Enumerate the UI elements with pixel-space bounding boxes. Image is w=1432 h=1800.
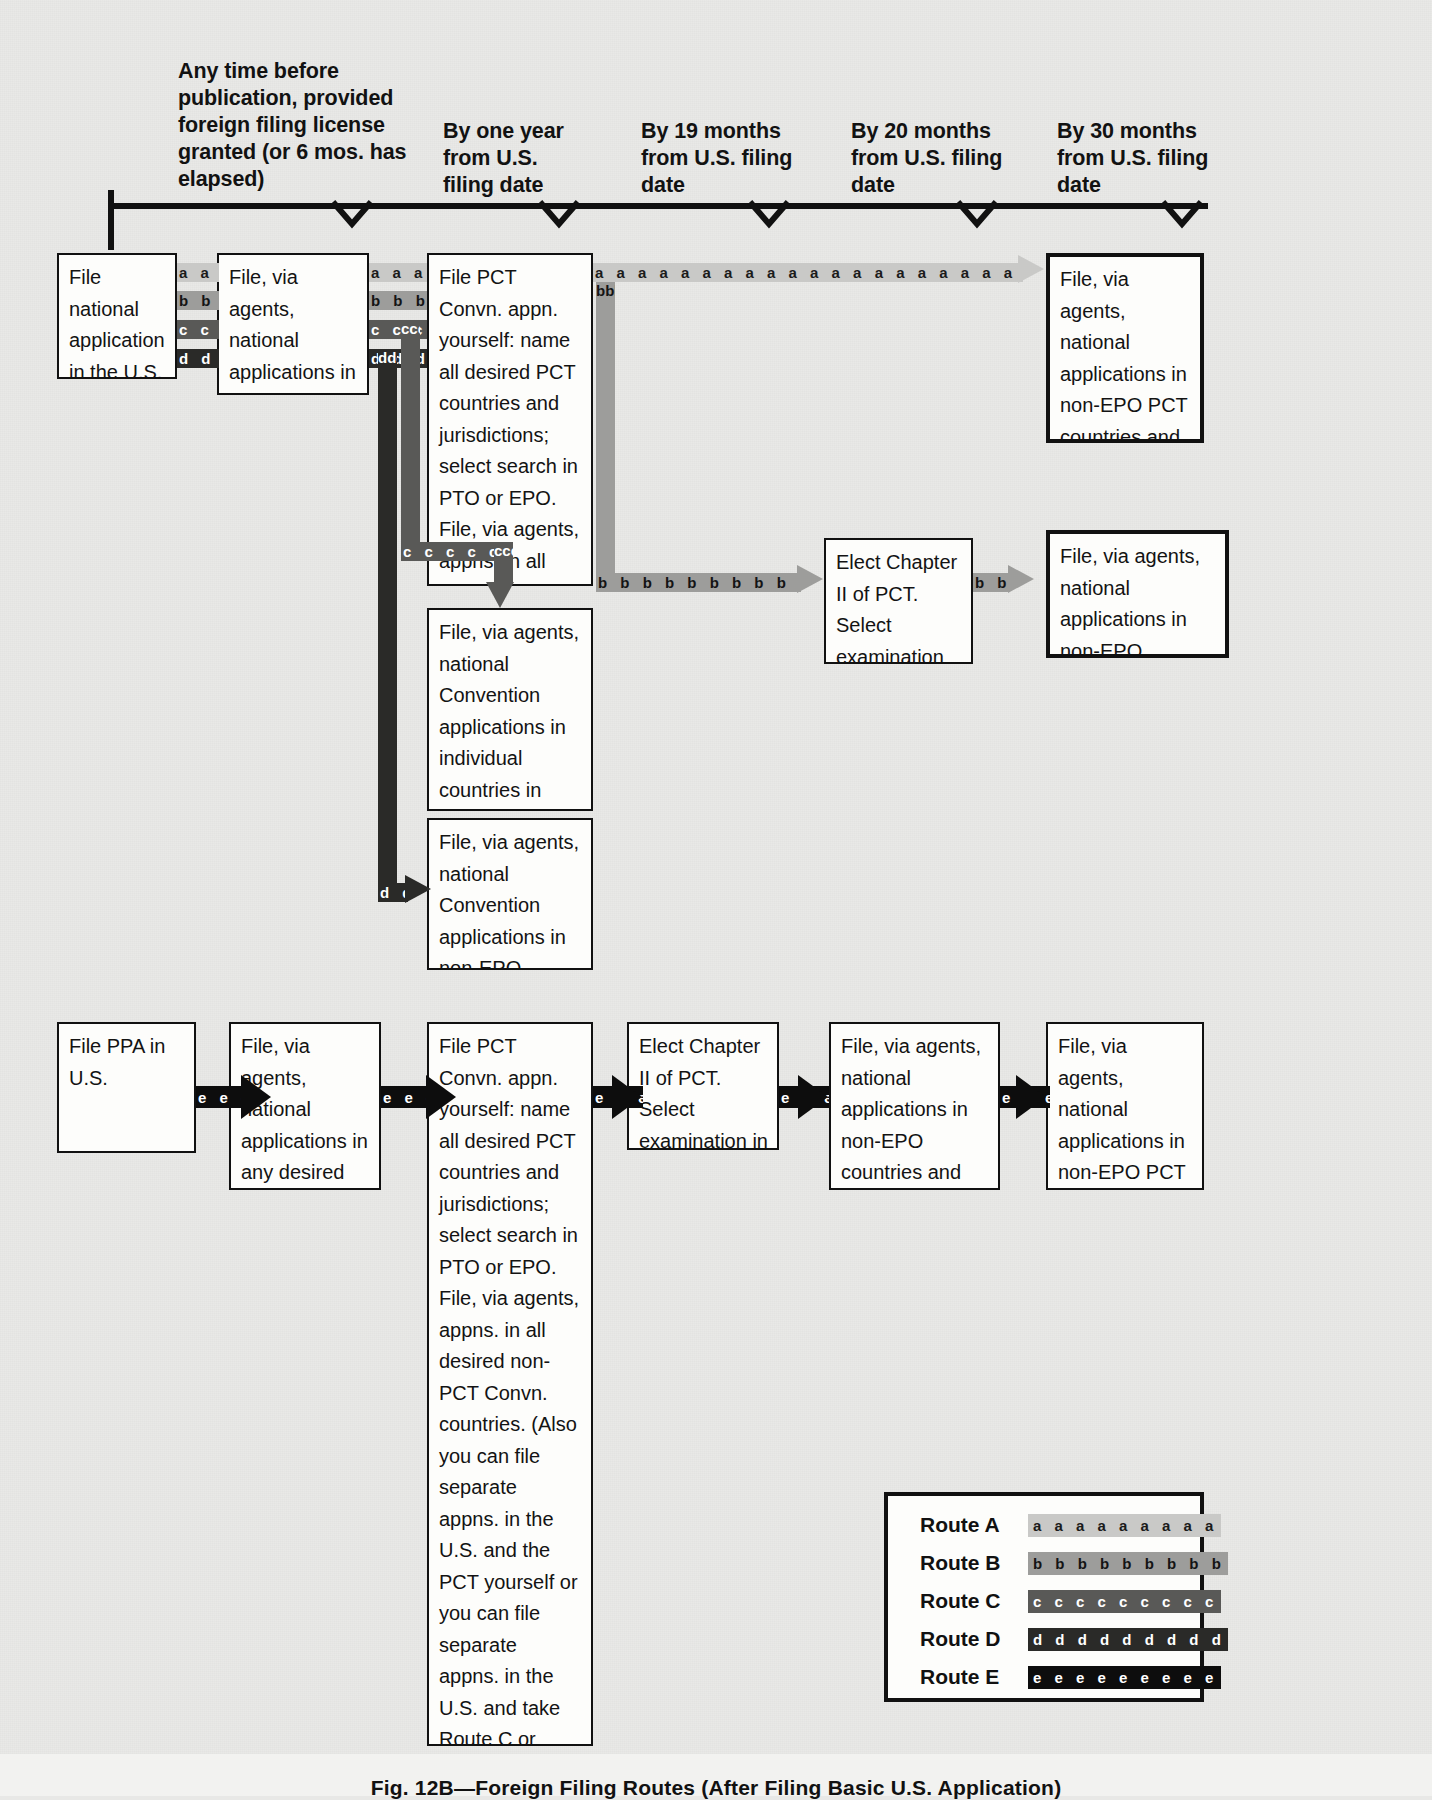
connector-route-a-seg1: a a a a bbox=[177, 263, 219, 282]
box-file-ppa-us[interactable]: File PPA in U.S. bbox=[57, 1022, 196, 1153]
connector-route-a-seg2: a a a a bbox=[369, 263, 427, 282]
legend-swatch-route-b: b b b b b b b b b bbox=[1028, 1552, 1228, 1575]
box-file-national-us[interactable]: File national application in the U.S. PT… bbox=[57, 253, 177, 379]
arrowhead-route-e-3 bbox=[612, 1075, 642, 1119]
connector-route-b-seg2: b b b b bbox=[369, 291, 427, 310]
connector-route-a-long: a a a a a a a a a a a a a a a a a a a a … bbox=[593, 263, 1023, 282]
legend-row-a: Route A a a a a a a a a a bbox=[920, 1512, 1221, 1538]
figure-caption: Fig. 12B—Foreign Filing Routes (After Fi… bbox=[0, 1776, 1432, 1800]
connector-route-d-horizontal: d d bbox=[378, 883, 408, 902]
legend-swatch-route-c: c c c c c c c c c bbox=[1028, 1590, 1221, 1613]
arrowhead-route-c bbox=[486, 582, 514, 608]
box-elect-chapter2-top[interactable]: Elect Chapter II of PCT. Select examinat… bbox=[824, 538, 973, 664]
timeline-milestone-2: By one year from U.S. filing date bbox=[443, 118, 593, 199]
timeline-milestone-1: Any time before publication, provided fo… bbox=[178, 58, 428, 193]
arrowhead-route-d bbox=[405, 875, 431, 903]
box-file-agents-nonconvention[interactable]: File, via agents, national applications … bbox=[217, 253, 369, 395]
legend-label-route-d: Route D bbox=[920, 1627, 1028, 1651]
timeline-notches bbox=[100, 196, 1220, 236]
legend-swatch-route-d: d d d d d d d d d bbox=[1028, 1628, 1228, 1651]
connector-route-c-vertical-2: ccccccccc bbox=[494, 542, 513, 584]
arrowhead-route-e-4 bbox=[798, 1075, 828, 1119]
legend-swatch-route-a: a a a a a a a a a bbox=[1028, 1514, 1221, 1537]
connector-route-b-tiny: b b b bbox=[973, 573, 1010, 592]
box-file-pct-convn-b[interactable]: File PCT Convn. appn. yourself: name all… bbox=[427, 1022, 593, 1746]
legend-label-route-c: Route C bbox=[920, 1589, 1028, 1613]
connector-route-e-seg2: e e e e bbox=[381, 1086, 431, 1108]
box-file-nonepo-epo-top[interactable]: File, via agents, national applications … bbox=[1046, 530, 1229, 658]
arrowhead-route-e-2 bbox=[426, 1075, 456, 1119]
arrowhead-route-b-1 bbox=[797, 565, 823, 593]
legend-row-d: Route D d d d d d d d d d bbox=[920, 1626, 1228, 1652]
timeline-milestone-4: By 20 months from U.S. filing date bbox=[851, 118, 1011, 199]
box-file-convention-nonepo[interactable]: File, via agents, national Convention ap… bbox=[427, 818, 593, 970]
timeline-milestone-3: By 19 months from U.S. filing date bbox=[641, 118, 801, 199]
legend-row-e: Route E e e e e e e e e e bbox=[920, 1664, 1221, 1690]
box-file-pct-convn[interactable]: File PCT Convn. appn. yourself: name all… bbox=[427, 253, 593, 586]
connector-route-c-vertical-1: cccccccccccccccccccccccc bbox=[401, 320, 420, 542]
box-file-nonepo-epo-bottom[interactable]: File, via agents, national applications … bbox=[829, 1022, 1000, 1190]
box-file-nonepo-pct-epo[interactable]: File, via agents, national applications … bbox=[1046, 253, 1204, 443]
connector-route-d-seg1: d d d d bbox=[177, 349, 219, 368]
box-file-nonepo-pct-epo-bottom[interactable]: File, via agents, national applications … bbox=[1046, 1022, 1204, 1190]
legend-row-c: Route C c c c c c c c c c bbox=[920, 1588, 1221, 1614]
legend-row-b: Route B b b b b b b b b b bbox=[920, 1550, 1228, 1576]
connector-route-b-horizontal: b b b b b b b b b b b b b b b bbox=[596, 573, 801, 592]
connector-route-c-seg1: c c c c bbox=[177, 320, 219, 339]
connector-route-b-seg1: b b b b bbox=[177, 291, 219, 310]
arrowhead-route-b-2 bbox=[1008, 565, 1034, 593]
box-elect-chapter2-bottom[interactable]: Elect Chapter II of PCT. Select examinat… bbox=[627, 1022, 779, 1150]
legend-label-route-e: Route E bbox=[920, 1665, 1028, 1689]
legend-label-route-b: Route B bbox=[920, 1551, 1028, 1575]
connector-route-b-vertical: bbbbbbbbbbbbbbbbbb bbox=[596, 282, 615, 592]
box-file-convention-individual[interactable]: File, via agents, national Convention ap… bbox=[427, 608, 593, 811]
timeline-milestone-5: By 30 months from U.S. filing date bbox=[1057, 118, 1217, 199]
legend-swatch-route-e: e e e e e e e e e bbox=[1028, 1666, 1221, 1689]
arrowhead-route-a bbox=[1018, 255, 1044, 283]
arrowhead-route-e-5 bbox=[1016, 1075, 1046, 1119]
legend-label-route-a: Route A bbox=[920, 1513, 1028, 1537]
connector-route-e-seg1: e e e e bbox=[196, 1086, 246, 1108]
connector-route-d-vertical: dddddddddddddddddddddddddddddddddddddddd… bbox=[378, 349, 397, 893]
arrowhead-route-e-1 bbox=[241, 1075, 271, 1119]
